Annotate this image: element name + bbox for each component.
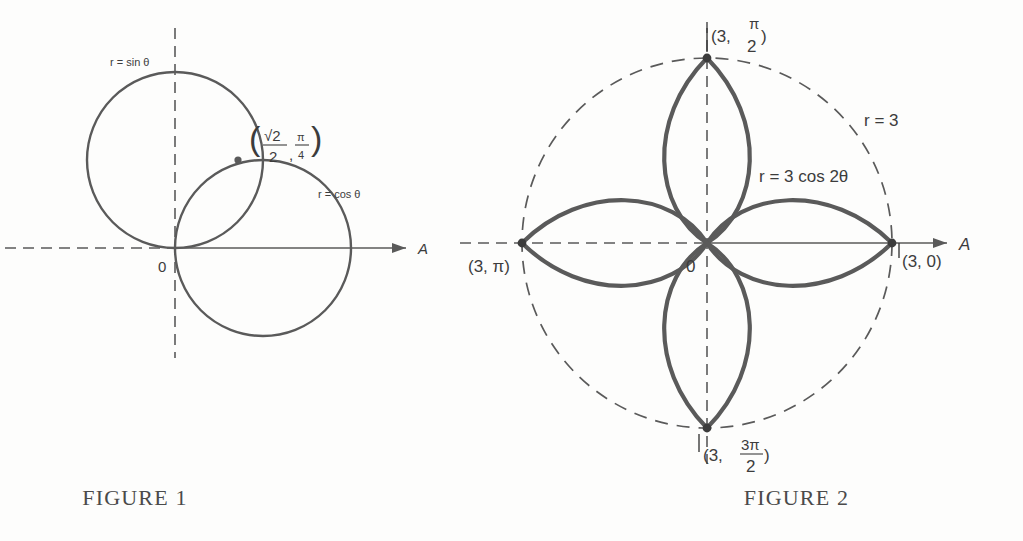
- figure-2: r = 3 r = 3 cos 2θ 0 A (3, 0) (3, π) (3,…: [450, 0, 1023, 541]
- figure-2-bottom-label-numerator: 3π: [741, 436, 760, 453]
- figure-1-cosine-label: r = cos θ: [318, 188, 361, 200]
- figure-1-intersection-point-marker: [234, 156, 241, 163]
- figure-1-origin-label: 0: [158, 258, 166, 275]
- figure-2-svg: r = 3 r = 3 cos 2θ 0 A (3, 0) (3, π) (3,…: [450, 0, 1023, 500]
- figure-1-label-sqrt2: √2: [264, 127, 281, 144]
- figure-2-origin-label: 0: [686, 257, 695, 276]
- figure-2-rose-label: r = 3 cos 2θ: [759, 167, 848, 186]
- figure-1-caption: FIGURE 1: [0, 485, 370, 511]
- figures-page: r = sin θ r = cos θ 0 A ( √2 2 , π 4 ) F…: [0, 0, 1023, 541]
- figure-1-sine-label: r = sin θ: [110, 56, 149, 68]
- figure-2-point-label-right: (3, 0): [902, 252, 942, 271]
- figure-1-label-open-paren: (: [249, 119, 261, 157]
- figure-2-top-label-denominator: 2: [747, 37, 756, 56]
- figure-1-axis-label: A: [417, 240, 428, 257]
- figure-1-svg: r = sin θ r = cos θ 0 A ( √2 2 , π 4 ): [0, 0, 470, 470]
- figure-1-label-pi: π: [297, 131, 305, 143]
- figure-2-x-axis-arrowhead: [933, 238, 947, 248]
- figure-2-point-label-bottom: (3, 3π 2 ): [699, 434, 770, 476]
- figure-2-bottom-label-close: ): [764, 446, 770, 465]
- figure-2-point-marker-right: [888, 239, 897, 248]
- figure-2-point-marker-bottom: [703, 424, 712, 433]
- figure-2-point-label-left: (3, π): [468, 257, 510, 276]
- figure-2-point-marker-top: [703, 54, 712, 63]
- figure-2-bottom-label-denominator: 2: [746, 457, 755, 476]
- figure-1-label-two: 2: [269, 148, 277, 165]
- figure-2-caption: FIGURE 2: [510, 485, 1023, 511]
- figure-2-top-label-prefix: (3,: [711, 27, 731, 46]
- figure-2-circle-label: r = 3: [864, 111, 899, 130]
- figure-2-top-label-close: ): [761, 27, 767, 46]
- figure-2-point-marker-left: [518, 239, 527, 248]
- figure-1-x-axis-arrowhead: [392, 243, 406, 253]
- figure-2-point-label-top: (3, π 2 ): [707, 15, 767, 56]
- figure-1-intersection-label: ( √2 2 , π 4 ): [249, 119, 322, 165]
- figure-1-label-close-paren: ): [311, 119, 322, 157]
- figure-1-label-comma: ,: [289, 146, 293, 163]
- figure-1: r = sin θ r = cos θ 0 A ( √2 2 , π 4 ) F…: [0, 0, 470, 541]
- figure-1-label-four: 4: [298, 149, 304, 161]
- figure-2-axis-label: A: [958, 235, 970, 254]
- figure-2-bottom-label-prefix: (3,: [703, 446, 723, 465]
- figure-2-top-label-numerator: π: [749, 15, 759, 32]
